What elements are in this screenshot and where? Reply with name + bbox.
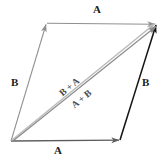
vector-addition-diagram: A A B B B + A A + B <box>0 0 167 164</box>
label-vector-a-top: A <box>93 4 101 15</box>
vector-resultant-b-plus-a-arrow <box>12 24 156 141</box>
label-vector-a-bottom: A <box>54 145 62 156</box>
vector-b-right-arrow <box>120 25 156 140</box>
vector-a-bottom-arrow <box>11 140 119 141</box>
label-vector-b-right: B <box>142 77 149 88</box>
label-vector-b-left: B <box>11 77 18 88</box>
vector-resultant-a-plus-b-arrow <box>13 26 156 141</box>
vector-a-top-arrow <box>47 23 155 24</box>
